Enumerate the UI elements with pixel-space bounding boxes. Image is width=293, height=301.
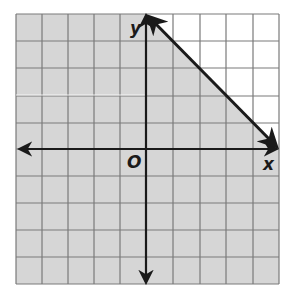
- coordinate-graph: y x O: [0, 0, 293, 301]
- x-axis-label: x: [262, 154, 275, 174]
- origin-label: O: [127, 152, 141, 172]
- y-axis-label: y: [130, 18, 142, 38]
